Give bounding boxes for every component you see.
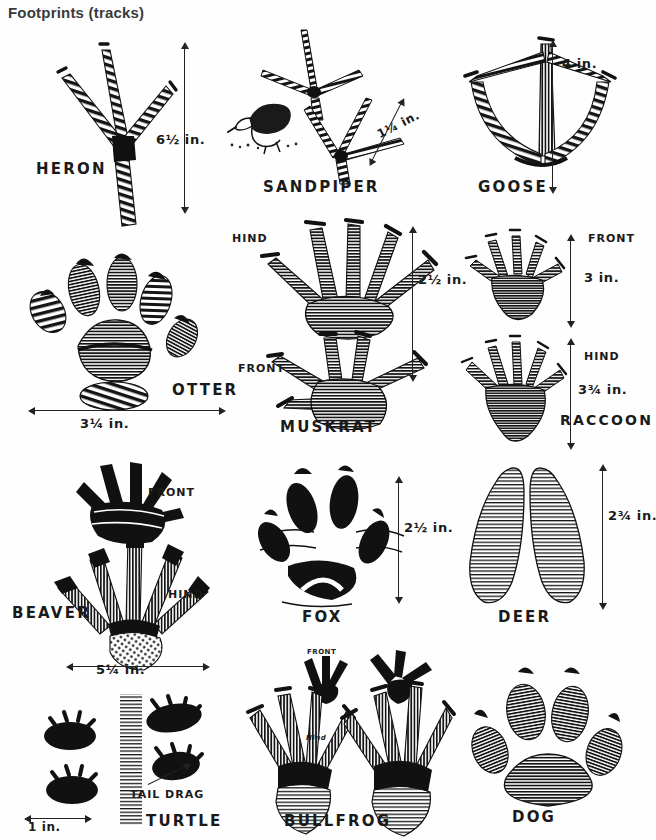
- measure-turtle: 1 in.: [28, 820, 61, 834]
- label-beaver-hind: HIND: [168, 588, 204, 601]
- deer-track-drawing: [462, 466, 602, 612]
- label-sandpiper-name: SANDPIPER: [263, 178, 380, 196]
- label-bullfrog-name: BULLFROG: [284, 812, 391, 830]
- label-bullfrog-hind: Hind: [306, 734, 326, 742]
- track-raccoon-hind: [458, 340, 578, 452]
- label-deer-name: DEER: [498, 608, 551, 626]
- beaver-hind-drawing: [52, 532, 212, 672]
- label-dog-name: DOG: [512, 808, 556, 826]
- track-muskrat-hind: [252, 222, 442, 352]
- label-muskrat-name: MUSKRAT: [280, 418, 377, 436]
- measure-arrow-deer: [602, 470, 603, 604]
- measure-goose: 4 in.: [562, 56, 597, 71]
- measure-arrow-raccoon-front: [570, 240, 571, 322]
- raccoon-hind-drawing: [458, 340, 578, 452]
- measure-arrow-turtle: [30, 818, 86, 819]
- footprints-plate: Footprints (tracks): [0, 0, 656, 840]
- dog-track-drawing: [470, 670, 630, 810]
- label-goose-name: GOOSE: [478, 178, 548, 196]
- sandpiper-lower-drawing: [300, 96, 410, 188]
- track-sandpiper-lower: [300, 96, 410, 188]
- measure-deer: 2¾ in.: [608, 508, 656, 523]
- label-muskrat-front: FRONT: [238, 362, 285, 375]
- track-dog: [470, 670, 630, 810]
- track-beaver-hind: [52, 532, 212, 672]
- measure-raccoon-hind: 3¾ in.: [578, 382, 627, 397]
- label-muskrat-hind: HIND: [232, 232, 268, 245]
- measure-arrow-muskrat: [412, 232, 413, 376]
- label-raccoon-name: RACCOON: [560, 412, 653, 428]
- label-raccoon-front: FRONT: [588, 232, 635, 245]
- measure-fox: 2½ in.: [404, 520, 453, 535]
- track-raccoon-front: [462, 230, 572, 330]
- label-bullfrog-front: FRONT: [307, 648, 336, 656]
- label-otter-name: OTTER: [172, 381, 238, 399]
- measure-otter: 3¼ in.: [80, 416, 129, 431]
- measure-arrow-otter: [34, 410, 220, 411]
- measure-heron: 6½ in.: [156, 132, 205, 147]
- measure-arrow-raccoon-hind: [570, 344, 571, 444]
- measure-arrow-goose: [552, 46, 553, 188]
- sandpiper-bird-drawing: [228, 96, 306, 154]
- track-deer: [462, 466, 602, 612]
- measure-arrow-heron: [184, 48, 185, 208]
- label-heron-name: HERON: [36, 160, 107, 178]
- label-turtle-name: TURTLE: [146, 812, 223, 830]
- track-fox: [258, 466, 418, 616]
- muskrat-hind-drawing: [252, 222, 442, 352]
- label-turtle-tail-drag: TAIL DRAG: [130, 788, 204, 801]
- label-beaver-name: BEAVER: [12, 604, 91, 622]
- track-goose: [455, 38, 625, 198]
- goose-track-drawing: [455, 38, 625, 198]
- measure-beaver: 5¼ in.: [96, 662, 145, 677]
- measure-raccoon-front: 3 in.: [584, 270, 619, 285]
- label-fox-name: FOX: [302, 608, 343, 626]
- sandpiper-bird-illustration: [228, 96, 306, 154]
- label-raccoon-hind: HIND: [584, 350, 620, 363]
- fox-track-drawing: [258, 466, 418, 616]
- label-beaver-front: FRONT: [148, 486, 195, 499]
- page-title: Footprints (tracks): [8, 4, 144, 21]
- measure-arrow-fox: [398, 482, 399, 598]
- measure-muskrat: 2½ in.: [418, 272, 467, 287]
- raccoon-front-drawing: [462, 230, 572, 330]
